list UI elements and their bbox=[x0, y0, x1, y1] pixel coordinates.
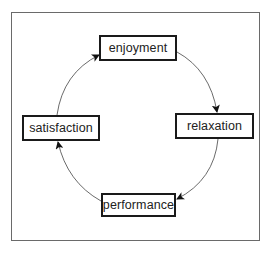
arrow-relaxation-to-performance bbox=[177, 139, 218, 199]
arrow-satisfaction-to-enjoyment bbox=[57, 55, 99, 115]
arrow-enjoyment-to-relaxation bbox=[177, 52, 217, 112]
node-label: enjoyment bbox=[109, 41, 168, 55]
node-label: performance bbox=[103, 198, 174, 212]
node-satisfaction: satisfaction bbox=[22, 115, 100, 141]
node-label: satisfaction bbox=[29, 121, 93, 135]
node-relaxation: relaxation bbox=[175, 113, 254, 139]
node-enjoyment: enjoyment bbox=[99, 35, 177, 61]
node-performance: performance bbox=[101, 193, 176, 217]
node-label: relaxation bbox=[187, 119, 242, 133]
arrow-performance-to-satisfaction bbox=[58, 142, 101, 201]
